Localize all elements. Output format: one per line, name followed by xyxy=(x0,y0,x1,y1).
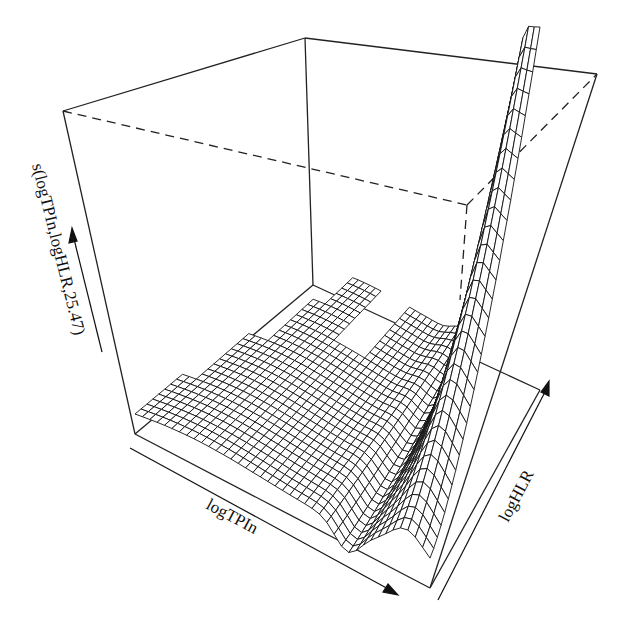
x-axis-label: logTPIn xyxy=(203,495,262,538)
surface-plot: logTPIn logHLR s(logTPIn,logHLR,25.47) xyxy=(0,0,622,629)
wireframe-surface xyxy=(135,26,540,558)
y-arrowhead-icon xyxy=(541,381,549,396)
x-arrowhead-icon xyxy=(383,584,398,595)
y-axis-label: logHLR xyxy=(495,466,538,525)
z-arrowhead-icon xyxy=(69,228,77,243)
